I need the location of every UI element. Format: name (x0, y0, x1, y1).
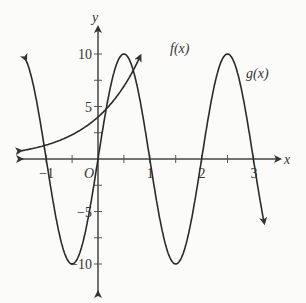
origin-label: O (84, 166, 94, 181)
y-tick-label: −5 (77, 205, 92, 220)
f-curve (21, 56, 140, 151)
x-tick-label: 2 (199, 166, 206, 181)
y-tick-label: −10 (70, 257, 92, 272)
chart-svg: −1123−10−5510Oxyf(x)g(x) (0, 0, 306, 303)
f-label: f(x) (170, 41, 190, 57)
x-tick-label: 3 (250, 166, 257, 181)
y-tick-label: 10 (78, 47, 92, 62)
x-axis-label: x (283, 152, 291, 167)
x-tick-label: −1 (39, 166, 54, 181)
g-label: g(x) (246, 66, 269, 82)
y-tick-label: 5 (85, 100, 92, 115)
chart: −1123−10−5510Oxyf(x)g(x) (0, 0, 306, 303)
y-axis-label: y (90, 10, 99, 25)
x-tick-label: 1 (147, 166, 154, 181)
